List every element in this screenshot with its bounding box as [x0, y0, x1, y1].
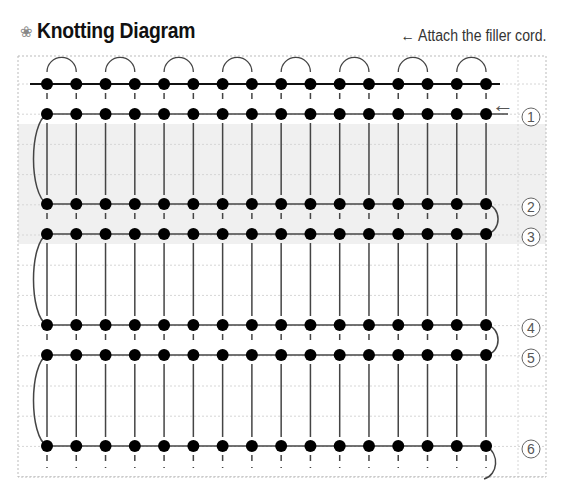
knot-dot	[363, 108, 375, 120]
knot-dot	[480, 319, 492, 331]
knot-dot	[451, 228, 463, 240]
knot-dot	[70, 319, 82, 331]
knot-dot	[187, 78, 199, 90]
knot-dot	[304, 349, 316, 361]
knot-dot	[158, 78, 170, 90]
knot-dot	[392, 440, 404, 452]
knot-dot	[451, 198, 463, 210]
knot-dot	[451, 108, 463, 120]
left-turn	[34, 234, 48, 325]
knot-dot	[158, 319, 170, 331]
knot-dot	[363, 440, 375, 452]
knot-dot	[129, 108, 141, 120]
knot-dot	[129, 228, 141, 240]
knot-dot	[422, 440, 434, 452]
knot-dot	[41, 108, 53, 120]
knot-dot	[246, 319, 258, 331]
knot-dot	[187, 440, 199, 452]
knot-dot	[422, 108, 434, 120]
knot-dot	[422, 349, 434, 361]
knot-dot	[217, 349, 229, 361]
loop-arch	[398, 57, 427, 72]
knot-dot	[334, 78, 346, 90]
knot-dot	[480, 440, 492, 452]
knot-dot	[187, 228, 199, 240]
knot-dot	[41, 349, 53, 361]
knot-dot	[422, 78, 434, 90]
knot-dot	[100, 198, 112, 210]
knot-dot	[275, 228, 287, 240]
knot-dot	[129, 440, 141, 452]
left-turn	[34, 355, 48, 446]
knot-dot	[275, 319, 287, 331]
knot-dot	[70, 440, 82, 452]
knot-dot	[70, 108, 82, 120]
knot-dot	[217, 78, 229, 90]
knot-dot	[275, 78, 287, 90]
knot-dot	[334, 349, 346, 361]
knot-dot	[275, 198, 287, 210]
knot-dot	[451, 349, 463, 361]
knot-dot	[41, 319, 53, 331]
knot-dot	[100, 228, 112, 240]
knot-dot	[422, 228, 434, 240]
arrow-icon: ←	[492, 92, 514, 117]
loop-arch	[457, 57, 486, 72]
knot-dot	[275, 108, 287, 120]
knot-dot	[480, 349, 492, 361]
knot-dot	[363, 198, 375, 210]
knot-dot	[275, 349, 287, 361]
knot-dot	[451, 319, 463, 331]
knot-dot	[392, 198, 404, 210]
row-label: 4	[527, 320, 535, 336]
knot-dot	[41, 78, 53, 90]
row-label: 1	[527, 109, 535, 125]
knot-dot	[246, 228, 258, 240]
shaded-band	[18, 124, 546, 244]
knot-dot	[246, 108, 258, 120]
knot-dot	[392, 78, 404, 90]
knot-dot	[217, 319, 229, 331]
knot-dot	[392, 349, 404, 361]
knot-dot	[392, 319, 404, 331]
knot-dot	[158, 108, 170, 120]
knot-dot	[158, 440, 170, 452]
knot-dot	[246, 78, 258, 90]
knot-dot	[217, 198, 229, 210]
knot-dot	[158, 228, 170, 240]
knot-dot	[187, 108, 199, 120]
knot-dot	[363, 78, 375, 90]
loop-arch	[223, 57, 252, 72]
knot-dot	[304, 108, 316, 120]
knot-dot	[217, 108, 229, 120]
knot-dot	[41, 440, 53, 452]
knot-dot	[246, 198, 258, 210]
knot-dot	[70, 198, 82, 210]
knot-dot	[422, 198, 434, 210]
knot-dot	[100, 78, 112, 90]
knot-dot	[70, 228, 82, 240]
row-label: 6	[527, 441, 535, 457]
knot-dot	[451, 78, 463, 90]
knot-dot	[334, 108, 346, 120]
knot-dot	[304, 440, 316, 452]
knot-dot	[187, 349, 199, 361]
knot-dot	[363, 319, 375, 331]
knot-dot	[129, 319, 141, 331]
knot-dot	[392, 108, 404, 120]
loop-arch	[47, 57, 76, 72]
knot-dot	[246, 349, 258, 361]
knot-dot	[41, 198, 53, 210]
knot-dot	[334, 198, 346, 210]
knot-dot	[480, 108, 492, 120]
knot-dot	[334, 228, 346, 240]
knot-dot	[217, 228, 229, 240]
knotting-diagram: ←123456	[0, 0, 566, 492]
knot-dot	[275, 440, 287, 452]
knot-dot	[246, 440, 258, 452]
knot-dot	[187, 319, 199, 331]
knot-dot	[217, 440, 229, 452]
knot-dot	[100, 319, 112, 331]
knot-dot	[41, 228, 53, 240]
knot-dot	[70, 78, 82, 90]
